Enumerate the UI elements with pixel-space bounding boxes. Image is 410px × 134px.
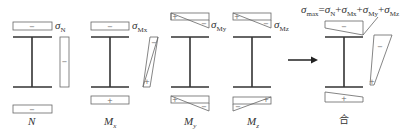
sigma-n-label: σN [55, 20, 66, 34]
sigma-mz-label: σMz [274, 19, 289, 33]
sigma-subscript: N [60, 26, 65, 34]
mz-top-right-sign: − [263, 20, 269, 28]
case-label-my: My [184, 116, 196, 130]
case-letter: M [104, 115, 113, 127]
i-beam-n [13, 37, 52, 87]
sigma-subscript: My [216, 25, 226, 33]
case-label-combined: 合 [339, 115, 349, 125]
combined-top-sign: − [341, 23, 347, 31]
arrow-right-icon [288, 57, 318, 64]
sigma-mx-label: σMx [132, 20, 147, 34]
mz-top-left-sign: + [234, 13, 240, 21]
section-mx-diagram [91, 22, 158, 104]
i-beam-mx [91, 37, 129, 87]
case-label-mx: Mx [104, 116, 116, 130]
case-letter: M [184, 115, 193, 127]
combined-bottom-sign: + [341, 95, 347, 103]
combined-side-top-sign: − [377, 43, 383, 51]
combined-formula: σmax=σN+σMx+σMy+σMz [301, 4, 399, 18]
case-subscript: z [256, 122, 259, 130]
case-letter: N [28, 115, 35, 127]
combined-diagram [325, 17, 392, 102]
case-subscript: y [193, 122, 196, 130]
my-bottom-right-sign: − [201, 103, 207, 111]
mx-top-sign: − [107, 23, 113, 31]
i-beam-combined [325, 37, 363, 87]
mz-bottom-right-sign: + [263, 96, 269, 104]
mz-bottom-left-sign: − [235, 103, 241, 111]
my-top-left-sign: + [172, 13, 178, 21]
sigma-subscript: Mz [279, 25, 288, 33]
formula-subscript: Mx [347, 10, 357, 18]
n-top-sign: − [29, 23, 35, 31]
case-subscript: x [113, 122, 116, 130]
n-side-sign: − [62, 58, 68, 66]
formula-subscript: max [306, 10, 318, 18]
mx-side-bottom-sign: + [144, 78, 150, 86]
i-beam-mz [233, 37, 271, 87]
case-label-mz: Mz [247, 116, 259, 130]
sigma-my-label: σMy [211, 19, 226, 33]
my-bottom-left-sign: + [172, 96, 178, 104]
sigma-subscript: Mx [137, 26, 147, 34]
formula-subscript: Mz [390, 10, 399, 18]
formula-leader-line [363, 17, 378, 35]
combined-side-bottom-sign: + [369, 78, 375, 86]
stress-superposition-diagram: − − − − − + + + − + − + − − + − − + + σN… [0, 0, 410, 134]
i-beam-my [171, 37, 209, 87]
case-letter: M [247, 115, 256, 127]
mx-bottom-sign: + [107, 97, 113, 105]
formula-subscript: My [368, 10, 378, 18]
case-label-n: N [28, 116, 35, 127]
section-n-diagram [13, 22, 69, 113]
n-bottom-sign: − [29, 106, 35, 114]
my-top-right-sign: − [201, 20, 207, 28]
mx-side-top-sign: − [151, 39, 157, 47]
